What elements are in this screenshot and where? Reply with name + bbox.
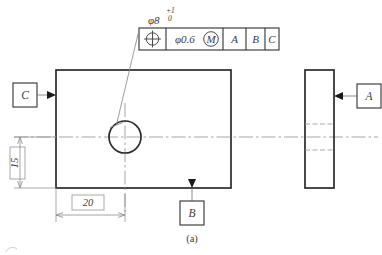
feature-control-frame[interactable]: φ0.6 M A B C xyxy=(139,28,279,50)
hole-tolerance-lower: 0 xyxy=(168,14,172,23)
datum-feature-c[interactable]: C xyxy=(13,83,56,107)
scan-artifact xyxy=(6,247,17,252)
dim-20-value: 20 xyxy=(83,197,94,208)
front-view-outline xyxy=(56,70,231,188)
datum-b-triangle-icon xyxy=(188,179,196,188)
dimension-20: 20 xyxy=(56,188,125,222)
dimension-15: 15 xyxy=(9,137,57,188)
dim-15-value: 15 xyxy=(9,158,20,169)
fcf-tolerance-value: φ0.6 xyxy=(175,33,195,45)
datum-c-triangle-icon xyxy=(47,91,56,99)
hole-leader-line xyxy=(117,30,140,125)
fcf-datum-secondary: B xyxy=(252,33,259,45)
fcf-datum-primary: A xyxy=(230,33,238,45)
datum-b-label: B xyxy=(188,207,195,219)
datum-a-triangle-icon xyxy=(334,92,343,100)
position-symbol-icon xyxy=(144,31,161,48)
datum-feature-a[interactable]: A xyxy=(334,84,381,108)
hole-diameter-symbol: φ8 xyxy=(148,14,160,26)
figure-caption: (a) xyxy=(186,233,198,245)
fcf-datum-tertiary: C xyxy=(268,33,276,45)
side-view xyxy=(305,70,334,188)
mmc-modifier-icon: M xyxy=(204,32,219,47)
datum-feature-b[interactable]: B xyxy=(180,179,204,225)
hole-diameter-note: φ8 +1 0 xyxy=(148,6,175,26)
side-view-outline xyxy=(305,70,334,188)
front-view xyxy=(14,70,378,212)
drawing-canvas: φ0.6 M A B C φ8 +1 0 C A B xyxy=(0,0,382,255)
mmc-modifier-letter: M xyxy=(205,33,216,45)
datum-c-label: C xyxy=(21,89,29,101)
engineering-drawing: φ0.6 M A B C φ8 +1 0 C A B xyxy=(0,0,382,255)
datum-a-label: A xyxy=(364,90,373,102)
